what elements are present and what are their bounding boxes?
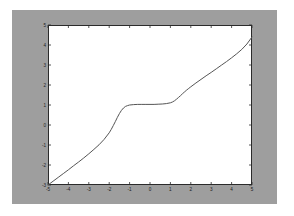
x-tick-label: 4 (230, 187, 233, 192)
y-tick-label: 3 (37, 63, 46, 68)
axes-plot-area (48, 25, 252, 185)
x-tick-label: 2 (190, 187, 193, 192)
y-tick-label: 4 (37, 43, 46, 48)
y-tick-label: -2 (37, 163, 46, 168)
x-tick-label: 3 (210, 187, 213, 192)
plot-screenshot: -5-4-3-2-1012345 -3-2-1012345 (0, 0, 294, 216)
y-tick-label: 5 (37, 23, 46, 28)
y-tick-label: 1 (37, 103, 46, 108)
x-tick-label: 1 (169, 187, 172, 192)
y-tick-label: 0 (37, 123, 46, 128)
x-tick-label: -4 (66, 187, 70, 192)
y-tick-label: 2 (37, 83, 46, 88)
x-tick-label: -1 (128, 187, 132, 192)
x-tick-label: 5 (251, 187, 254, 192)
x-tick-label: -2 (107, 187, 111, 192)
x-tick-label: -5 (46, 187, 50, 192)
y-tick-label: -3 (37, 183, 46, 188)
y-tick-label: -1 (37, 143, 46, 148)
x-tick-label: -3 (87, 187, 91, 192)
x-tick-label: 0 (149, 187, 152, 192)
